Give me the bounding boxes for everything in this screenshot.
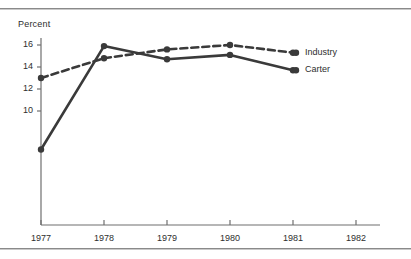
data-point-carter-1977: [38, 146, 44, 152]
chart-figure: Percent 16141210 19771978197919801981198…: [0, 0, 411, 259]
plot-area: [0, 0, 411, 259]
x-tick-label-1980: 1980: [210, 233, 250, 243]
y-tick-label-16: 16: [13, 39, 33, 49]
series-group: [38, 42, 296, 153]
legend-marker-industry: [293, 50, 299, 56]
x-tick-label-1979: 1979: [147, 233, 187, 243]
y-tick-label-14: 14: [13, 61, 33, 71]
legend-label-carter: Carter: [305, 64, 330, 74]
data-point-industry-1978: [101, 55, 107, 61]
data-point-industry-1979: [164, 46, 170, 52]
data-point-industry-1980: [227, 42, 233, 48]
data-point-industry-1977: [38, 75, 44, 81]
legend-marker-carter: [293, 67, 299, 73]
x-tick-label-1978: 1978: [84, 233, 124, 243]
x-tick-label-1981: 1981: [273, 233, 313, 243]
data-point-carter-1979: [164, 56, 170, 62]
data-point-carter-1980: [227, 52, 233, 58]
x-tick-label-1977: 1977: [21, 233, 61, 243]
data-point-carter-1978: [101, 43, 107, 49]
legend-label-industry: Industry: [305, 47, 337, 57]
y-tick-label-12: 12: [13, 83, 33, 93]
x-tick-label-1982: 1982: [336, 233, 376, 243]
legend-marks-group: [293, 50, 299, 74]
y-tick-label-10: 10: [13, 105, 33, 115]
